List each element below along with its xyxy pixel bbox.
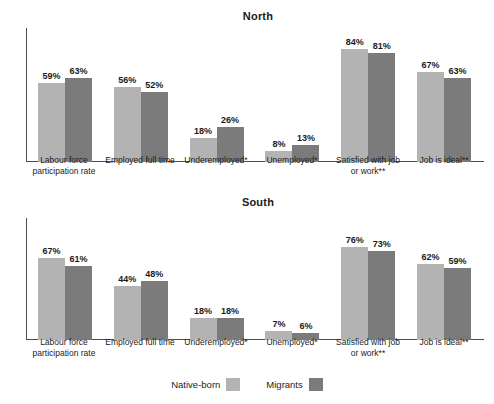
bar-groups-north: 59%63%56%52%18%26%8%13%84%81%67%63% — [27, 28, 482, 162]
bar-migrants[interactable] — [444, 268, 471, 340]
category-label: Unemployed* — [254, 155, 330, 177]
bar-migrants[interactable] — [141, 281, 168, 340]
legend-swatch-native-born — [226, 378, 240, 391]
bar-native-born[interactable] — [417, 264, 444, 340]
bar-value-label: 26% — [210, 115, 250, 125]
bar-pair: 8%13% — [254, 28, 330, 162]
bar-group: 8%13% — [254, 28, 330, 162]
category-labels-north: Labour force participation rateEmployed … — [26, 155, 482, 177]
bar-group: 56%52% — [103, 28, 179, 162]
bar-pair: 7%6% — [254, 218, 330, 340]
category-label: Underemployed* — [178, 337, 254, 359]
bar-group: 18%26% — [179, 28, 255, 162]
bar-native-born[interactable] — [341, 49, 368, 162]
legend-label-migrants: Migrants — [266, 379, 302, 390]
plot-area-north: 59%63%56%52%18%26%8%13%84%81%67%63% — [26, 28, 482, 162]
bar-slot: 63% — [444, 28, 471, 162]
bar-pair: 18%18% — [179, 218, 255, 340]
category-label: Labour force participation rate — [26, 337, 102, 359]
bar-slot: 26% — [217, 28, 244, 162]
legend-swatch-migrants — [309, 378, 323, 391]
bar-group: 67%63% — [406, 28, 482, 162]
bar-native-born[interactable] — [38, 258, 65, 340]
bar-slot: 81% — [368, 28, 395, 162]
panel-title-south: South — [0, 196, 494, 208]
chart-legend: Native-born Migrants — [0, 378, 494, 391]
category-label: Job is ideal** — [406, 155, 482, 177]
legend-label-native-born: Native-born — [171, 379, 220, 390]
bar-slot: 59% — [38, 28, 65, 162]
bar-slot: 52% — [141, 28, 168, 162]
bar-slot: 59% — [444, 218, 471, 340]
bar-slot: 18% — [190, 218, 217, 340]
category-label: Job is ideal** — [406, 337, 482, 359]
bar-slot: 44% — [114, 218, 141, 340]
bar-pair: 62%59% — [406, 218, 482, 340]
bar-slot: 62% — [417, 218, 444, 340]
bar-value-label: 6% — [286, 321, 326, 331]
bar-pair: 18%26% — [179, 28, 255, 162]
bar-group: 44%48% — [103, 218, 179, 340]
bar-slot: 18% — [217, 218, 244, 340]
bar-group: 67%61% — [27, 218, 103, 340]
bar-native-born[interactable] — [341, 247, 368, 340]
bar-pair: 44%48% — [103, 218, 179, 340]
bar-pair: 59%63% — [27, 28, 103, 162]
bar-slot: 61% — [65, 218, 92, 340]
legend-item-migrants[interactable]: Migrants — [266, 378, 322, 391]
bar-pair: 84%81% — [330, 28, 406, 162]
bar-slot: 73% — [368, 218, 395, 340]
legend-item-native-born[interactable]: Native-born — [171, 378, 240, 391]
category-label: Satisfied with job or work** — [330, 155, 406, 177]
bar-native-born[interactable] — [114, 286, 141, 340]
category-label: Labour force participation rate — [26, 155, 102, 177]
bar-group: 18%18% — [179, 218, 255, 340]
bar-value-label: 13% — [286, 133, 326, 143]
category-label: Underemployed* — [178, 155, 254, 177]
bar-value-label: 63% — [58, 66, 98, 76]
bar-pair: 67%61% — [27, 218, 103, 340]
bar-slot: 48% — [141, 218, 168, 340]
bar-value-label: 61% — [58, 254, 98, 264]
category-label: Employed full time — [102, 337, 178, 359]
bar-pair: 56%52% — [103, 28, 179, 162]
bar-native-born[interactable] — [114, 87, 141, 162]
bar-slot: 18% — [190, 28, 217, 162]
bar-group: 62%59% — [406, 218, 482, 340]
bar-value-label: 63% — [438, 66, 478, 76]
bar-group: 7%6% — [254, 218, 330, 340]
bar-value-label: 59% — [438, 256, 478, 266]
bar-slot: 13% — [292, 28, 319, 162]
bar-migrants[interactable] — [65, 266, 92, 340]
bar-slot: 6% — [292, 218, 319, 340]
plot-area-south: 67%61%44%48%18%18%7%6%76%73%62%59% — [26, 218, 482, 340]
bar-migrants[interactable] — [444, 78, 471, 162]
chart-figure: North 59%63%56%52%18%26%8%13%84%81%67%63… — [0, 0, 494, 404]
panel-title-north: North — [0, 10, 494, 22]
bar-group: 84%81% — [330, 28, 406, 162]
bar-slot: 56% — [114, 28, 141, 162]
category-label: Satisfied with job or work** — [330, 337, 406, 359]
bar-native-born[interactable] — [417, 72, 444, 162]
category-label: Unemployed* — [254, 337, 330, 359]
bar-value-label: 52% — [134, 80, 174, 90]
bar-pair: 76%73% — [330, 218, 406, 340]
bar-native-born[interactable] — [38, 83, 65, 162]
bar-value-label: 81% — [362, 41, 402, 51]
bar-value-label: 73% — [362, 239, 402, 249]
category-labels-south: Labour force participation rateEmployed … — [26, 337, 482, 359]
category-label: Employed full time — [102, 155, 178, 177]
bar-value-label: 48% — [134, 269, 174, 279]
bar-group: 59%63% — [27, 28, 103, 162]
bar-migrants[interactable] — [368, 53, 395, 162]
bar-slot: 76% — [341, 218, 368, 340]
bar-slot: 67% — [38, 218, 65, 340]
bar-value-label: 18% — [210, 306, 250, 316]
bar-groups-south: 67%61%44%48%18%18%7%6%76%73%62%59% — [27, 218, 482, 340]
bar-migrants[interactable] — [368, 251, 395, 340]
bar-migrants[interactable] — [65, 78, 92, 162]
bar-pair: 67%63% — [406, 28, 482, 162]
bar-group: 76%73% — [330, 218, 406, 340]
bar-migrants[interactable] — [141, 92, 168, 162]
bar-slot: 63% — [65, 28, 92, 162]
